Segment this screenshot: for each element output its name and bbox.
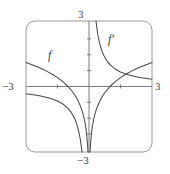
curve-label-f-prime: f′ xyxy=(108,33,114,45)
top-cropped-text-artifact xyxy=(4,0,164,8)
y-axis-min-label: −3 xyxy=(77,155,89,166)
x-axis-min-label: −3 xyxy=(2,81,14,92)
figure-background xyxy=(0,0,170,174)
y-axis-max-label: 3 xyxy=(78,9,84,20)
curve-label-f: f xyxy=(48,49,51,61)
x-axis-max-label: 3 xyxy=(155,81,161,92)
function-graph-figure: 3 −3 −3 3 f f′ xyxy=(0,0,170,174)
plot-canvas xyxy=(0,0,170,174)
